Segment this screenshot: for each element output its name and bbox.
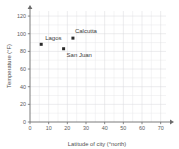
y-tick-label: 0 <box>23 119 26 125</box>
x-tick-label: 60 <box>139 125 145 131</box>
chart-canvas: 010203040506070020406080100120 LagosSan … <box>0 0 179 149</box>
data-point-marker <box>62 47 65 50</box>
y-tick-label: 60 <box>20 66 26 72</box>
x-axis-title: Latitude of city (°north) <box>68 141 126 147</box>
data-point-label: Calcutta <box>75 28 98 34</box>
y-axis-title: Temperature (°F) <box>6 44 12 88</box>
data-point-marker <box>71 37 74 40</box>
x-tick-label: 20 <box>64 125 70 131</box>
x-tick-label: 0 <box>29 125 32 131</box>
x-tick-label: 10 <box>46 125 52 131</box>
x-tick-label: 70 <box>158 125 164 131</box>
x-tick-label: 40 <box>102 125 108 131</box>
data-point-label: San Juan <box>67 52 92 58</box>
scatter-chart: 010203040506070020406080100120 LagosSan … <box>0 0 179 149</box>
point-labels: LagosSan JuanCalcutta <box>45 28 97 58</box>
data-point-label: Lagos <box>45 35 61 41</box>
gridlines-minor <box>30 11 166 122</box>
y-tick-label: 40 <box>20 84 26 90</box>
x-tick-label: 50 <box>120 125 126 131</box>
y-tick-label: 100 <box>17 31 26 37</box>
y-tick-label: 80 <box>20 48 26 54</box>
axes <box>28 5 174 124</box>
data-point-marker <box>40 43 43 46</box>
y-tick-label: 120 <box>17 13 26 19</box>
y-tick-label: 20 <box>20 101 26 107</box>
x-tick-label: 30 <box>83 125 89 131</box>
gridlines-major <box>30 11 166 122</box>
